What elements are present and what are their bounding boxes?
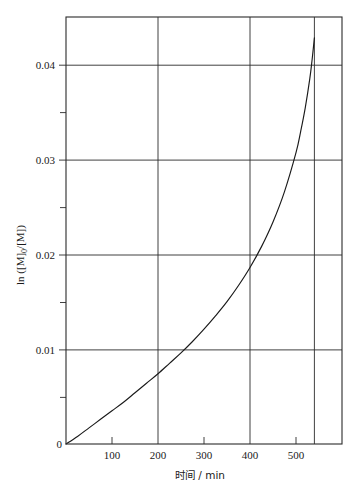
y-axis-title: ln ([M]0/[M]) bbox=[14, 225, 29, 285]
ytick-label-0.02: 0.02 bbox=[36, 249, 55, 261]
x-axis-title: 时间 / min bbox=[175, 469, 225, 481]
line-chart: 0.01 0.02 0.03 0.04 0 100 200 300 400 50… bbox=[0, 0, 360, 497]
xtick-label-100: 100 bbox=[104, 449, 121, 461]
xtick-label-500: 500 bbox=[288, 449, 305, 461]
ytick-label-0.04: 0.04 bbox=[36, 59, 56, 71]
xtick-label-400: 400 bbox=[242, 449, 259, 461]
y-axis-title-suffix: /[M]) bbox=[14, 225, 27, 249]
plot-background bbox=[66, 17, 342, 444]
xtick-label-200: 200 bbox=[150, 449, 167, 461]
chart-figure: 0.01 0.02 0.03 0.04 0 100 200 300 400 50… bbox=[0, 0, 360, 497]
xtick-label-300: 300 bbox=[196, 449, 213, 461]
y-axis-title-group: ln ([M]0/[M]) bbox=[14, 225, 29, 285]
y-axis-title-prefix: ln ([M] bbox=[14, 253, 27, 285]
ytick-label-0.03: 0.03 bbox=[36, 154, 56, 166]
ytick-label-0: 0 bbox=[57, 438, 63, 450]
ytick-label-0.01: 0.01 bbox=[36, 344, 55, 356]
